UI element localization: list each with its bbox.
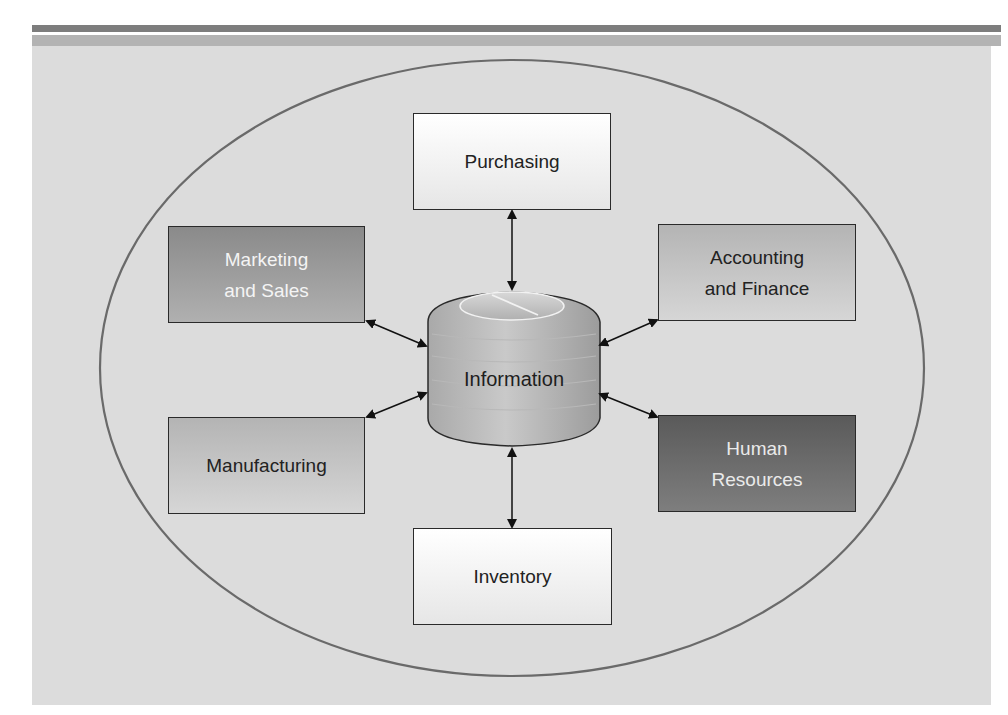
accounting-and-finance-box: Accounting and Finance	[658, 224, 856, 321]
inventory-label: Inventory	[473, 561, 551, 592]
arrow-accounting	[600, 320, 657, 345]
purchasing-box: Purchasing	[413, 113, 611, 210]
human-resources-box: Human Resources	[658, 415, 856, 512]
accounting-and-finance-label: Accounting and Finance	[705, 242, 810, 304]
arrow-marketing	[367, 321, 426, 346]
arrow-manufacturing	[367, 393, 426, 417]
manufacturing-label: Manufacturing	[206, 450, 326, 481]
marketing-and-sales-box: Marketing and Sales	[168, 226, 365, 323]
information-label: Information	[428, 368, 600, 391]
manufacturing-box: Manufacturing	[168, 417, 365, 514]
purchasing-label: Purchasing	[464, 146, 559, 177]
marketing-and-sales-label: Marketing and Sales	[224, 244, 309, 306]
human-resources-label: Human Resources	[712, 433, 803, 495]
arrow-hr	[600, 394, 657, 417]
inventory-box: Inventory	[413, 528, 612, 625]
